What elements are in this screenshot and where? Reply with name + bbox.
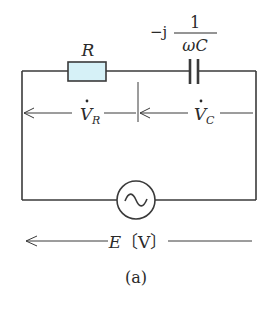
capacitor <box>190 59 198 84</box>
ac-voltage-source <box>117 181 155 219</box>
vr-label: V R <box>80 100 100 127</box>
vc-dot <box>200 100 203 103</box>
vr-subscript: R <box>91 114 100 127</box>
capacitor-impedance-numerator: 1 <box>190 13 200 32</box>
series-rc-circuit-diagram: R −j 1 ωC V R V C <box>0 0 271 319</box>
capacitor-impedance-denominator: ωC <box>182 36 207 55</box>
vr-dot <box>86 100 89 103</box>
capacitor-impedance-prefix: −j <box>150 23 167 41</box>
resistor-label: R <box>81 40 95 60</box>
source-voltage-label: E〔V〕 <box>108 232 168 252</box>
resistor <box>68 62 106 81</box>
vc-subscript: C <box>206 114 215 127</box>
voltage-arrows <box>24 82 253 122</box>
vc-label: V C <box>194 100 215 127</box>
figure-caption: (a) <box>125 268 147 287</box>
